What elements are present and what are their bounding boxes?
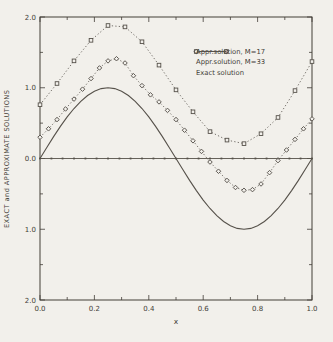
zero-line-dot — [300, 158, 302, 160]
zero-line-dot — [198, 158, 200, 160]
y-tick-label: 1.0 — [25, 226, 36, 234]
x-tick-label: 0.2 — [89, 305, 100, 313]
x-tick-label: 0.4 — [143, 305, 155, 313]
square-marker-icon — [293, 89, 297, 93]
diamond-marker-icon — [80, 87, 85, 92]
square-marker-icon — [310, 60, 314, 64]
zero-line-dot — [164, 158, 166, 160]
zero-line-dot — [130, 158, 132, 160]
diamond-marker-icon — [199, 149, 204, 154]
zero-line-dot — [232, 158, 234, 160]
square-marker-icon — [225, 138, 229, 142]
square-marker-icon — [191, 110, 195, 114]
square-marker-icon — [89, 39, 93, 43]
diamond-marker-icon — [250, 187, 255, 192]
y-axis-title: EXACT and APPROXIMATE SOLUTIONS — [1, 17, 13, 300]
zero-line-dot — [51, 158, 53, 160]
legend-key-solid-line — [193, 47, 230, 56]
series-line-m17 — [40, 26, 312, 144]
square-marker-icon — [174, 88, 178, 92]
diamond-marker-icon — [293, 137, 298, 142]
x-tick-label: 1.0 — [306, 305, 317, 313]
zero-line-dot — [255, 158, 257, 160]
x-tick-label: 0.6 — [198, 305, 210, 313]
figure: 0.00.20.40.60.81.02.01.00.01.02.0 EXACT … — [0, 0, 333, 342]
diamond-marker-icon — [284, 148, 289, 153]
diamond-marker-icon — [182, 128, 187, 133]
diamond-marker-icon — [89, 76, 94, 81]
diamond-marker-icon — [97, 66, 102, 71]
zero-line-dot — [266, 158, 268, 160]
diamond-marker-icon — [267, 170, 272, 175]
diamond-marker-icon — [157, 100, 162, 105]
diamond-marker-icon — [55, 117, 60, 122]
zero-line-dot — [85, 158, 87, 160]
diamond-marker-icon — [106, 59, 111, 64]
x-tick-label: 0.8 — [252, 305, 263, 313]
square-marker-icon — [55, 82, 59, 86]
legend-label-exact: Exact solution — [196, 69, 244, 77]
square-marker-icon — [72, 59, 76, 63]
zero-line-dot — [243, 158, 245, 160]
zero-line-dot — [96, 158, 98, 160]
x-axis-title: x — [40, 317, 312, 326]
y-tick-label: 2.0 — [25, 297, 36, 305]
y-tick-label: 2.0 — [25, 14, 36, 22]
y-tick-label: 0.0 — [25, 155, 36, 163]
diamond-marker-icon — [148, 93, 153, 98]
legend-item-m33: Appr.solution, M=33 — [193, 58, 265, 67]
diamond-marker-icon — [301, 127, 306, 132]
legend-label-m33: Appr.solution, M=33 — [196, 58, 265, 66]
zero-line-dot — [73, 158, 75, 160]
diamond-marker-icon — [38, 135, 43, 140]
diamond-marker-icon — [259, 182, 264, 187]
plot-svg: 0.00.20.40.60.81.02.01.00.01.02.0 — [0, 0, 333, 342]
y-tick-label: 1.0 — [25, 84, 36, 92]
zero-line-dot — [153, 158, 155, 160]
square-marker-icon — [208, 130, 212, 134]
series-line-m33 — [40, 59, 312, 191]
zero-line-dot — [221, 158, 223, 160]
square-marker-icon — [106, 24, 110, 28]
zero-line-dot — [119, 158, 121, 160]
square-marker-icon — [140, 40, 144, 44]
diamond-marker-icon — [123, 61, 128, 66]
x-tick-label: 0.0 — [34, 305, 45, 313]
legend: Appr.solution, M=17 Appr.solution, M=33 … — [193, 47, 265, 77]
diamond-marker-icon — [233, 185, 238, 190]
square-marker-icon — [123, 25, 127, 29]
zero-line-dot — [62, 158, 64, 160]
diamond-marker-icon — [131, 73, 136, 78]
square-marker-icon — [276, 116, 280, 120]
zero-line-dot — [107, 158, 109, 160]
square-marker-icon — [259, 132, 263, 136]
zero-line-dot — [187, 158, 189, 160]
zero-line-dot — [209, 158, 211, 160]
square-marker-icon — [157, 63, 161, 67]
zero-line-dot — [289, 158, 291, 160]
diamond-marker-icon — [225, 178, 230, 183]
legend-item-exact: Exact solution — [193, 68, 265, 77]
square-marker-icon — [242, 142, 246, 146]
diamond-marker-icon — [242, 188, 247, 193]
square-marker-icon — [38, 103, 42, 107]
diamond-marker-icon — [191, 139, 196, 144]
zero-line-dot — [141, 158, 143, 160]
diamond-marker-icon — [114, 56, 119, 61]
